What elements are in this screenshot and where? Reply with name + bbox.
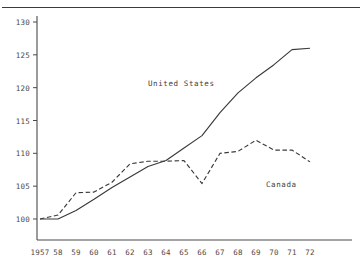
- chart-figure: 100105110115120125130 195758596061626364…: [0, 0, 362, 274]
- y-axis-tick-label: 105: [8, 182, 30, 191]
- y-axis-tick-label: 115: [8, 117, 30, 126]
- y-axis-tick-label: 130: [8, 18, 30, 27]
- y-axis-tick-marks: [33, 22, 37, 219]
- x-axis-tick-label: 72: [296, 248, 324, 257]
- y-axis-tick-label: 125: [8, 51, 30, 60]
- y-axis-tick-label: 100: [8, 215, 30, 224]
- series-annotation-canada: Canada: [266, 180, 297, 189]
- y-axis-tick-label: 120: [8, 84, 30, 93]
- series-line-united-states: [40, 48, 310, 219]
- chart-plot-area: [0, 0, 362, 274]
- y-axis-tick-label: 110: [8, 149, 30, 158]
- series-annotation-united-states: United States: [148, 79, 215, 88]
